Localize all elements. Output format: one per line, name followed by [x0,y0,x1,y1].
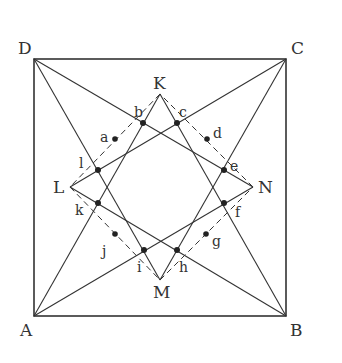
label-e: e [230,158,238,174]
label-A: A [19,320,33,340]
label-c: c [179,104,187,120]
point-j [112,231,118,237]
solid-lines [34,59,286,316]
point-a [112,136,118,142]
label-i: i [137,259,142,275]
label-C: C [291,38,304,58]
point-l [95,167,101,173]
point-d [204,136,210,142]
label-b: b [134,104,143,120]
label-M: M [153,282,170,302]
geometry-diagram: D C A B K L M N a b c d e f g h i j k l [0,0,342,363]
point-h [174,247,180,253]
label-a: a [100,129,108,145]
point-g [203,231,209,237]
label-B: B [290,320,303,340]
dashed-lines [70,94,253,280]
label-l: l [79,155,84,171]
label-j: j [100,243,106,259]
label-L: L [53,177,64,197]
point-e [221,167,227,173]
points [95,120,227,253]
label-k: k [75,202,84,218]
point-k [95,200,101,206]
label-g: g [212,233,221,249]
label-d: d [213,125,222,141]
label-D: D [18,38,32,58]
label-f: f [235,204,242,220]
point-b [140,120,146,126]
label-h: h [179,259,188,275]
point-c [174,120,180,126]
label-N: N [258,177,273,197]
point-f [221,200,227,206]
label-K: K [153,73,166,93]
point-i [141,247,147,253]
